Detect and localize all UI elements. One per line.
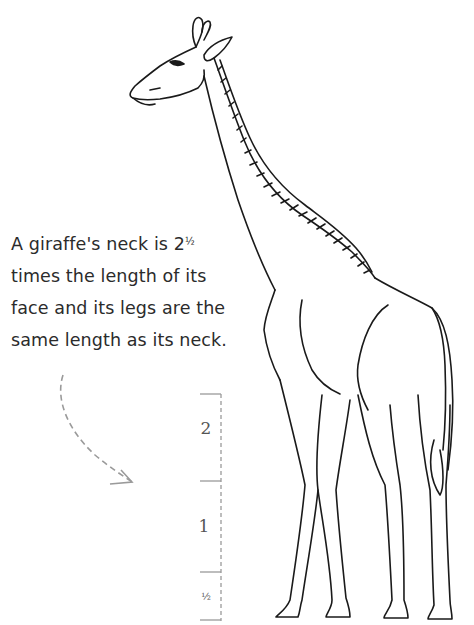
caption-text: A giraffe's neck is 2½ times the length … — [11, 226, 271, 356]
scale-label-1: 1 — [194, 516, 214, 536]
giraffe-body — [264, 278, 453, 470]
caption-line-3: face and its legs are the — [11, 292, 271, 324]
illustration-canvas: A giraffe's neck is 2½ times the length … — [0, 0, 474, 625]
fraction-half: ½ — [185, 236, 194, 247]
caption-line-1: A giraffe's neck is 2½ — [11, 226, 271, 260]
scale-label-half: ½ — [196, 591, 216, 602]
caption-line-2: times the length of its — [11, 260, 271, 292]
caption-line-1-text: A giraffe's neck is 2 — [11, 234, 185, 254]
scale-label-2: 2 — [196, 418, 216, 438]
giraffe-head — [130, 18, 232, 105]
giraffe-legs — [276, 380, 452, 619]
dashed-arrow — [61, 375, 132, 484]
caption-line-4: same length as its neck. — [11, 324, 271, 356]
